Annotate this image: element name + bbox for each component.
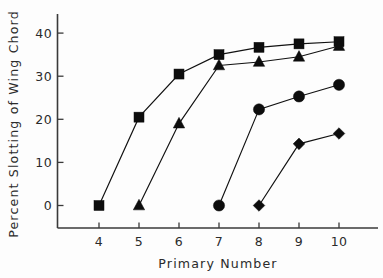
chart-figure: 010203040 45678910 Primary Number Percen… bbox=[0, 0, 383, 278]
x-tick-label: 8 bbox=[255, 234, 263, 249]
y-axis-ticks: 010203040 bbox=[35, 26, 63, 213]
series-triangle bbox=[133, 40, 344, 210]
y-tick-label: 40 bbox=[35, 26, 52, 41]
triangle-marker bbox=[173, 117, 184, 128]
series-line bbox=[139, 46, 339, 205]
square-marker bbox=[254, 42, 264, 52]
x-tick-label: 6 bbox=[175, 234, 183, 249]
y-tick-label: 30 bbox=[35, 69, 52, 84]
x-axis-ticks: 45678910 bbox=[95, 223, 348, 250]
square-marker bbox=[294, 39, 304, 49]
data-series-group bbox=[94, 37, 345, 212]
triangle-marker bbox=[133, 199, 144, 210]
y-tick-label: 10 bbox=[35, 155, 52, 170]
scatter-line-plot: 010203040 45678910 Primary Number Percen… bbox=[0, 0, 383, 278]
x-tick-label: 5 bbox=[135, 234, 143, 249]
diamond-marker bbox=[253, 200, 265, 212]
x-tick-label: 9 bbox=[295, 234, 303, 249]
x-tick-label: 4 bbox=[95, 234, 103, 249]
square-marker bbox=[134, 112, 144, 122]
triangle-marker bbox=[213, 59, 224, 70]
diamond-marker bbox=[293, 138, 305, 150]
axes-group bbox=[58, 14, 379, 228]
x-axis-title: Primary Number bbox=[158, 256, 277, 271]
y-tick-label: 20 bbox=[35, 112, 52, 127]
square-marker bbox=[174, 69, 184, 79]
y-tick-label: 0 bbox=[44, 198, 52, 213]
circle-marker bbox=[293, 91, 304, 102]
series-circle bbox=[213, 79, 344, 211]
circle-marker bbox=[333, 79, 344, 90]
square-marker bbox=[94, 201, 104, 211]
circle-marker bbox=[253, 104, 264, 115]
series-line bbox=[219, 85, 339, 206]
y-axis-title: Percent Slotting of Wing Chord bbox=[6, 10, 21, 238]
series-diamond bbox=[253, 128, 345, 212]
x-tick-label: 10 bbox=[331, 234, 348, 249]
square-marker bbox=[214, 50, 224, 60]
x-tick-label: 7 bbox=[215, 234, 223, 249]
diamond-marker bbox=[333, 128, 345, 140]
circle-marker bbox=[213, 200, 224, 211]
